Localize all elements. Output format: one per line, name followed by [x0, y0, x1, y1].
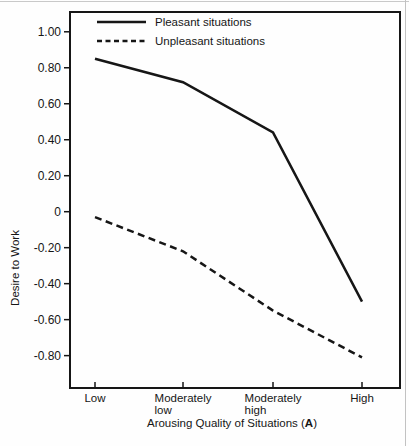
y-tick-label: 0.80 [38, 61, 62, 75]
y-tick-label: 0 [54, 205, 61, 219]
legend-label-pleasant: Pleasant situations [155, 16, 252, 28]
x-tick-label: High [350, 392, 374, 404]
x-tick-label: low [155, 404, 173, 416]
x-tick-label: Moderately [155, 392, 212, 404]
x-axis-title: Arousing Quality of Situations (A) [147, 417, 317, 429]
figure: 1.000.800.600.400.200-0.20-0.40-0.60-0.8… [0, 0, 409, 446]
series-line-pleasant [95, 59, 362, 302]
series-line-unpleasant [95, 217, 362, 357]
x-axis-title-suffix: ) [313, 417, 317, 429]
y-tick-label: 0.20 [38, 169, 62, 183]
x-tick-label: Low [84, 392, 106, 404]
plot-border [70, 12, 400, 388]
y-tick-label: -0.40 [34, 277, 62, 291]
chart-canvas: 1.000.800.600.400.200-0.20-0.40-0.60-0.8… [0, 0, 409, 446]
x-tick-label: Moderately [245, 392, 302, 404]
y-tick-label: -0.20 [34, 241, 62, 255]
y-tick-label: 1.00 [38, 25, 62, 39]
y-tick-label: 0.60 [38, 97, 62, 111]
y-tick-label: -0.60 [34, 313, 62, 327]
x-axis-title-bold: A [305, 417, 313, 429]
legend-label-unpleasant: Unpleasant situations [155, 35, 265, 47]
y-tick-label: -0.80 [34, 349, 62, 363]
x-axis-title-prefix: Arousing Quality of Situations ( [147, 417, 305, 429]
y-axis-title: Desire to Work [9, 230, 21, 306]
y-tick-label: 0.40 [38, 133, 62, 147]
x-tick-label: high [245, 404, 267, 416]
